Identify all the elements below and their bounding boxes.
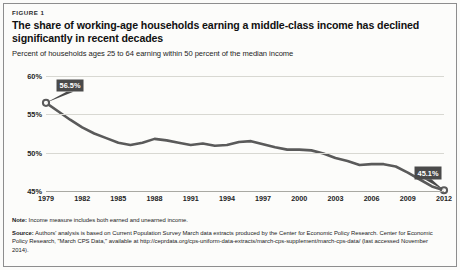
figure-header: FIGURE 1 The share of working-age househ… [12,8,448,59]
data-label-callout: 45.1% [415,167,442,180]
x-axis-tick-label: 1979 [38,194,54,203]
gridline [46,191,444,192]
note-label: Note: [12,217,27,223]
series-line [46,103,444,190]
x-axis-tick-label: 1994 [219,194,235,203]
y-axis-tick-label: 55% [27,110,42,119]
gridline [46,114,444,115]
callout-leader [46,92,74,103]
chart-plot: 60%55%50%45%1979198219851988199119941997… [46,76,444,191]
x-axis-tick-label: 2012 [436,194,452,203]
gridline [46,76,444,77]
x-axis-tick-label: 1988 [147,194,163,203]
figure-subhead: Percent of households ages 25 to 64 earn… [12,48,448,59]
data-point-marker [43,100,49,106]
x-axis-tick-label: 1997 [255,194,271,203]
x-axis-tick-label: 1985 [110,194,126,203]
chart-area: 60%55%50%45%1979198219851988199119941997… [12,66,448,204]
source-line: Source: Authors' analysis is based on Cu… [12,229,444,254]
data-label-callout: 56.5% [57,79,84,92]
note-text: Income measure includes both earned and … [29,217,188,223]
note-line: Note: Income measure includes both earne… [12,216,444,224]
figure-notes: Note: Income measure includes both earne… [12,216,444,254]
y-axis-tick-label: 60% [27,72,42,81]
x-axis-tick-label: 2009 [400,194,416,203]
figure-number: FIGURE 1 [12,8,448,17]
x-axis-tick-label: 2006 [364,194,380,203]
x-axis-tick-label: 2003 [327,194,343,203]
x-axis-tick-label: 1991 [183,194,199,203]
figure-headline: The share of working-age households earn… [12,19,436,45]
source-text: Authors' analysis is based on Current Po… [12,230,433,252]
figure-container: FIGURE 1 The share of working-age househ… [0,0,460,270]
x-axis-tick-label: 1982 [74,194,90,203]
x-axis-tick-label: 2000 [291,194,307,203]
gridline [46,153,444,154]
y-axis-tick-label: 50% [27,148,42,157]
source-label: Source: [12,230,34,236]
line-series [46,76,444,191]
